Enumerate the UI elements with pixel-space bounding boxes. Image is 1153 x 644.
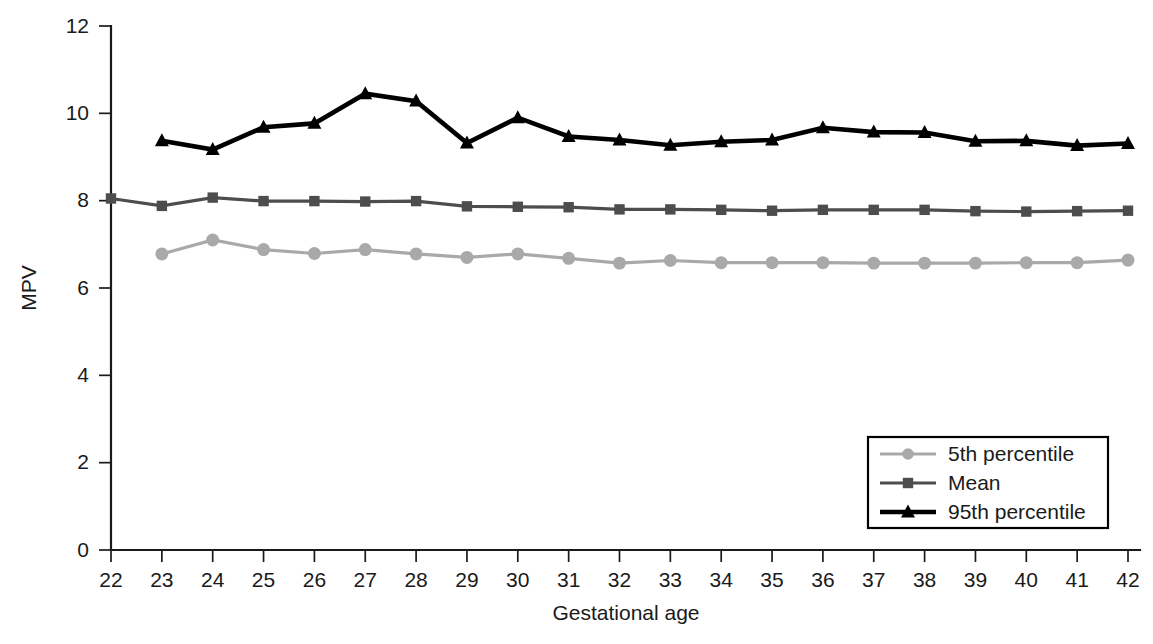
x-tick-label: 23 — [150, 568, 173, 591]
data-point — [818, 205, 828, 215]
data-point — [462, 201, 472, 211]
data-point — [766, 256, 779, 269]
y-tick-label: 0 — [77, 538, 89, 561]
x-axis-title: Gestational age — [552, 601, 699, 624]
x-tick-label: 36 — [811, 568, 834, 591]
data-point — [816, 256, 829, 269]
x-tick-label: 24 — [201, 568, 225, 591]
chart-canvas: 024681012 222324252627282930313233343536… — [0, 0, 1153, 644]
data-point — [513, 202, 523, 212]
data-point — [664, 254, 677, 267]
x-tick-label: 28 — [404, 568, 427, 591]
x-tick-label: 34 — [710, 568, 734, 591]
data-point — [919, 205, 929, 215]
x-tick-label: 30 — [506, 568, 529, 591]
data-point — [969, 257, 982, 270]
x-tick-label: 29 — [455, 568, 478, 591]
data-point — [309, 196, 319, 206]
data-point — [767, 206, 777, 216]
y-tick-label: 2 — [77, 450, 89, 473]
x-tick-label: 39 — [964, 568, 987, 591]
data-point — [1072, 206, 1082, 216]
data-point — [257, 243, 270, 256]
data-point — [410, 247, 423, 260]
data-point — [359, 243, 372, 256]
x-axis: 2223242526272829303132333435363738394041… — [99, 550, 1139, 591]
series-5th-percentile — [155, 233, 1134, 269]
data-point — [613, 257, 626, 270]
x-tick-label: 31 — [557, 568, 580, 591]
data-point — [869, 205, 879, 215]
x-tick-label: 25 — [252, 568, 275, 591]
data-point — [258, 196, 268, 206]
y-axis: 024681012 — [66, 14, 111, 561]
series-95th-percentile — [155, 86, 1135, 155]
series-line — [162, 94, 1128, 150]
y-tick-label: 8 — [77, 188, 89, 211]
legend-label: 95th percentile — [948, 500, 1086, 523]
data-point — [665, 204, 675, 214]
y-tick-label: 6 — [77, 276, 89, 299]
data-point — [206, 233, 219, 246]
data-point — [511, 247, 524, 260]
data-point — [360, 196, 370, 206]
data-point — [918, 257, 931, 270]
legend-label: Mean — [948, 471, 1001, 494]
data-point — [562, 252, 575, 265]
x-tick-label: 38 — [913, 568, 936, 591]
y-tick-label: 12 — [66, 14, 89, 37]
legend-swatch-marker — [902, 448, 914, 460]
legend-label: 5th percentile — [948, 442, 1074, 465]
data-point — [411, 196, 421, 206]
x-tick-label: 40 — [1015, 568, 1038, 591]
data-point — [155, 247, 168, 260]
data-point — [563, 202, 573, 212]
y-tick-label: 4 — [77, 363, 89, 386]
data-point — [460, 251, 473, 264]
series-line — [162, 240, 1128, 263]
data-point — [308, 247, 321, 260]
data-point — [1020, 256, 1033, 269]
x-tick-label: 26 — [303, 568, 326, 591]
data-series-group — [106, 86, 1135, 269]
legend-swatch-marker — [903, 478, 913, 488]
x-tick-label: 42 — [1116, 568, 1139, 591]
y-tick-label: 10 — [66, 101, 89, 124]
chart-figure: 024681012 222324252627282930313233343536… — [0, 0, 1153, 644]
data-point — [716, 205, 726, 215]
x-tick-label: 32 — [608, 568, 631, 591]
data-point — [1122, 254, 1135, 267]
x-tick-label: 35 — [760, 568, 783, 591]
x-tick-label: 22 — [99, 568, 122, 591]
data-point — [157, 201, 167, 211]
x-tick-label: 27 — [354, 568, 377, 591]
data-point — [1021, 206, 1031, 216]
data-point — [106, 193, 116, 203]
y-axis-title: MPV — [17, 265, 40, 311]
series-mean — [106, 192, 1133, 216]
data-point — [715, 256, 728, 269]
x-tick-label: 37 — [862, 568, 885, 591]
data-point — [1123, 206, 1133, 216]
x-tick-label: 41 — [1065, 568, 1088, 591]
data-point — [511, 110, 525, 123]
data-point — [1071, 256, 1084, 269]
data-point — [970, 206, 980, 216]
x-tick-label: 33 — [659, 568, 682, 591]
data-point — [867, 257, 880, 270]
data-point — [614, 204, 624, 214]
chart-legend: 5th percentileMean95th percentile — [868, 437, 1108, 528]
data-point — [208, 192, 218, 202]
